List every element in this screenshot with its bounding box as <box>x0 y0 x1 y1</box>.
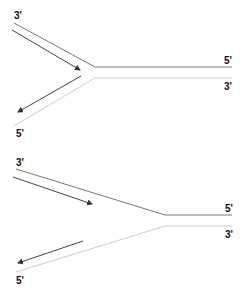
parent-strand-light <box>16 226 232 272</box>
replication-fork-diagram-top: 3' 5' 5' 3' <box>0 0 243 144</box>
leading-strand-arrow <box>13 177 92 204</box>
fork-graphic-bottom <box>0 144 243 288</box>
label-5prime-bottom-left: 5' <box>16 129 24 139</box>
label-3prime-top-left: 3' <box>14 11 22 21</box>
parent-strand-dark <box>14 23 232 67</box>
label-5prime-top-right: 5' <box>224 56 232 66</box>
fork-graphic-top <box>0 0 243 144</box>
leading-strand-arrow <box>12 30 80 70</box>
label-5prime-bottom-left: 5' <box>16 276 24 286</box>
parent-strand-light <box>14 78 232 126</box>
lagging-strand-arrow <box>18 76 81 112</box>
replication-fork-diagram-bottom: 3' 5' 5' 3' <box>0 144 243 288</box>
label-3prime-top-left: 3' <box>16 158 24 168</box>
label-3prime-bottom-right: 3' <box>224 82 232 92</box>
lagging-strand-arrow <box>18 241 83 263</box>
label-5prime-top-right: 5' <box>225 204 233 214</box>
label-3prime-bottom-right: 3' <box>225 230 233 240</box>
parent-strand-dark <box>16 169 232 215</box>
